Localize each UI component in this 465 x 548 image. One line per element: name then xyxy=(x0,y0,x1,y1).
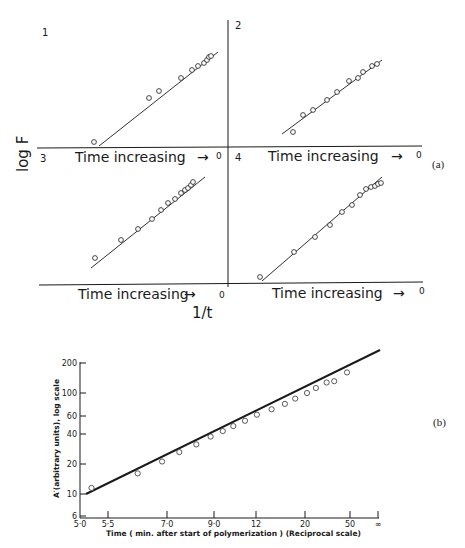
data-point xyxy=(370,64,375,69)
data-point xyxy=(160,459,165,464)
data-point xyxy=(347,79,352,84)
y-axis-label-b: A′(arbitrary units), log scale xyxy=(52,379,61,498)
data-point xyxy=(292,250,297,255)
y-axis-label-a: log F xyxy=(14,136,32,172)
quadrant-2-axis-label: Time increasing → 0 xyxy=(267,148,422,164)
x-tick-label: 5·0 xyxy=(74,520,87,529)
x-axis-label-a: 1/t xyxy=(192,304,213,322)
data-point xyxy=(166,201,171,206)
arrow-right-icon: → xyxy=(184,286,196,302)
data-point xyxy=(220,429,225,434)
y-tick-label: 10 xyxy=(67,490,77,499)
x-tick-label: 50 xyxy=(345,520,355,529)
zero-label: 0 xyxy=(219,290,225,300)
arrow-right-icon: → xyxy=(391,148,403,164)
data-point xyxy=(364,187,369,192)
data-point xyxy=(177,450,182,455)
data-point xyxy=(304,390,309,395)
quadrant-4-plot xyxy=(258,177,384,281)
x-tick-label: 12 xyxy=(251,520,261,529)
x-tick-label: 20 xyxy=(300,520,310,529)
data-point xyxy=(379,181,384,186)
data-point xyxy=(209,54,214,59)
data-point xyxy=(179,76,184,81)
quadrant-3-plot xyxy=(91,177,205,268)
data-point xyxy=(313,235,318,240)
x-tick-label: ∞ xyxy=(375,520,382,529)
data-point xyxy=(157,89,162,94)
data-point xyxy=(89,485,94,490)
x-tick-label: 9·0 xyxy=(208,520,221,529)
zero-label: 0 xyxy=(419,286,425,296)
data-point xyxy=(293,396,298,401)
data-point xyxy=(194,442,199,447)
data-point xyxy=(150,217,155,222)
arrow-right-icon: → xyxy=(393,285,405,301)
data-point xyxy=(173,197,178,202)
fit-line xyxy=(282,60,382,134)
data-point xyxy=(258,275,263,280)
axis-text: Time increasing xyxy=(271,285,383,301)
y-ticks-b: 200100604020106 xyxy=(62,359,86,521)
data-point xyxy=(311,108,316,113)
quadrant-2-number: 2 xyxy=(235,20,241,31)
x-tick-label: 5·5 xyxy=(102,520,115,529)
zero-label: 0 xyxy=(416,150,422,160)
data-point xyxy=(119,238,124,243)
data-point xyxy=(231,424,236,429)
quadrant-1-axis-label: Time increasing → 0 xyxy=(74,149,222,165)
panel-label-b: (b) xyxy=(433,416,446,429)
data-point xyxy=(159,208,164,213)
data-point xyxy=(344,370,349,375)
data-point xyxy=(254,412,259,417)
data-point xyxy=(135,471,140,476)
axis-text: Time increasing xyxy=(77,286,189,302)
data-point xyxy=(301,113,306,118)
data-point xyxy=(136,227,141,232)
x-ticks-b: 5·05·57·09·0122050∞ xyxy=(74,511,382,529)
data-point xyxy=(340,210,345,215)
figure-canvas: 1 2 3 4 Time increasing → 0 Time increas… xyxy=(0,0,465,548)
data-point xyxy=(93,256,98,261)
quadrant-3-axis-label: Time increasing → 0 xyxy=(77,286,225,302)
y-tick-label: 100 xyxy=(62,389,77,398)
data-point xyxy=(313,385,318,390)
data-point xyxy=(282,401,287,406)
data-point xyxy=(190,68,195,73)
data-point xyxy=(92,140,97,145)
data-point xyxy=(358,193,363,198)
arrow-right-icon: → xyxy=(197,149,209,165)
y-tick-label: 60 xyxy=(67,412,77,421)
quadrant-3-number: 3 xyxy=(40,153,46,164)
data-point xyxy=(361,70,366,75)
quadrant-2-plot xyxy=(282,60,382,134)
y-tick-label: 200 xyxy=(62,359,77,368)
data-point xyxy=(147,96,152,101)
y-tick-label: 20 xyxy=(67,460,77,469)
fit-line xyxy=(262,177,382,281)
zero-label: 0 xyxy=(216,151,222,161)
data-point xyxy=(196,64,201,69)
data-point xyxy=(332,379,337,384)
data-point xyxy=(269,407,274,412)
data-point xyxy=(191,180,196,185)
panel-label-a: (a) xyxy=(432,158,445,171)
figure-a-panels xyxy=(91,52,383,281)
x-tick-label: 7·0 xyxy=(161,520,174,529)
data-point xyxy=(325,98,330,103)
quadrant-1-number: 1 xyxy=(42,27,48,38)
data-point xyxy=(242,418,247,423)
data-point xyxy=(375,62,380,67)
data-point xyxy=(335,90,340,95)
fit-line-b xyxy=(86,350,380,494)
axis-text: Time increasing xyxy=(267,148,379,164)
quadrant-4-number: 4 xyxy=(235,152,241,163)
data-point xyxy=(208,434,213,439)
data-point xyxy=(328,223,333,228)
quadrant-4-axis-label: Time increasing → 0 xyxy=(271,285,425,301)
data-point xyxy=(291,130,296,135)
axis-text: Time increasing xyxy=(74,149,186,165)
data-point xyxy=(350,203,355,208)
quadrant-1-plot xyxy=(92,52,218,146)
data-point xyxy=(324,380,329,385)
